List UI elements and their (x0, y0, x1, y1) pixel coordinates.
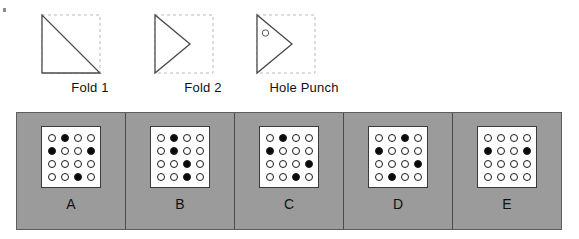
dot-cell (302, 170, 315, 183)
dot-empty-icon (375, 160, 383, 168)
fold-step-2-label: Fold 2 (148, 80, 258, 95)
fold-step-3: Hole Punch (244, 14, 354, 102)
dot-cell (289, 144, 302, 157)
dot-cell (494, 131, 507, 144)
dot-filled-icon (292, 173, 300, 181)
dot-cell (302, 157, 315, 170)
dot-cell (520, 131, 533, 144)
dot-cell (302, 144, 315, 157)
dot-cell (58, 144, 71, 157)
dot-empty-icon (157, 134, 165, 142)
dot-cell (520, 170, 533, 183)
fold-1-figure (41, 14, 119, 74)
dot-empty-icon (497, 160, 505, 168)
dot-empty-icon (401, 147, 409, 155)
dot-cell (398, 131, 411, 144)
dot-cell (180, 157, 193, 170)
dot-empty-icon (305, 147, 313, 155)
dot-cell (276, 170, 289, 183)
dot-filled-icon (523, 147, 531, 155)
dot-empty-icon (401, 160, 409, 168)
dot-filled-icon (375, 147, 383, 155)
dot-cell (154, 131, 167, 144)
dot-empty-icon (305, 134, 313, 142)
dot-cell (507, 157, 520, 170)
answer-option-a[interactable]: A (17, 113, 126, 229)
dot-cell (154, 157, 167, 170)
dot-cell (289, 170, 302, 183)
dot-empty-icon (292, 134, 300, 142)
dot-empty-icon (157, 173, 165, 181)
dot-cell (180, 170, 193, 183)
answer-option-d[interactable]: D (344, 113, 453, 229)
dot-empty-icon (279, 160, 287, 168)
dot-cell (494, 144, 507, 157)
dot-filled-icon (170, 147, 178, 155)
dot-cell (180, 144, 193, 157)
dot-grid (259, 126, 319, 188)
dot-cell (398, 157, 411, 170)
dot-cell (398, 144, 411, 157)
dot-empty-icon (305, 173, 313, 181)
dot-cell (71, 144, 84, 157)
dot-cell (263, 170, 276, 183)
dot-filled-icon (87, 147, 95, 155)
dot-empty-icon (61, 147, 69, 155)
hole-punch-figure (256, 14, 338, 74)
dot-empty-icon (375, 134, 383, 142)
dot-empty-icon (414, 134, 422, 142)
dot-grid (41, 126, 101, 188)
dot-cell (372, 144, 385, 157)
dot-empty-icon (74, 147, 82, 155)
fold-step-1: Fold 1 (36, 14, 146, 102)
dot-empty-icon (61, 173, 69, 181)
dot-empty-icon (74, 134, 82, 142)
dot-cell (372, 157, 385, 170)
dot-cell (507, 144, 520, 157)
fold-step-2: Fold 2 (148, 14, 258, 102)
dot-empty-icon (523, 173, 531, 181)
dot-cell (520, 157, 533, 170)
dot-filled-icon (61, 134, 69, 142)
dot-cell (167, 157, 180, 170)
dot-empty-icon (170, 173, 178, 181)
dot-cell (84, 144, 97, 157)
dot-empty-icon (279, 173, 287, 181)
dot-cell (507, 170, 520, 183)
dot-cell (411, 170, 424, 183)
dot-empty-icon (292, 160, 300, 168)
dot-cell (263, 157, 276, 170)
dot-empty-icon (74, 160, 82, 168)
dot-empty-icon (388, 134, 396, 142)
dot-filled-icon (279, 134, 287, 142)
dot-empty-icon (48, 160, 56, 168)
dot-cell (411, 144, 424, 157)
answer-option-e[interactable]: E (453, 113, 561, 229)
dot-cell (263, 131, 276, 144)
dot-filled-icon (266, 147, 274, 155)
hole-punch-triangle-icon (257, 15, 292, 73)
dot-filled-icon (484, 147, 492, 155)
fold-step-1-label: Fold 1 (34, 80, 146, 95)
dot-empty-icon (510, 147, 518, 155)
dot-empty-icon (510, 134, 518, 142)
dot-filled-icon (48, 147, 56, 155)
dot-cell (481, 170, 494, 183)
dot-empty-icon (401, 173, 409, 181)
dot-cell (494, 157, 507, 170)
dot-cell (385, 157, 398, 170)
punched-hole-icon (262, 30, 268, 36)
dot-empty-icon (279, 147, 287, 155)
dot-filled-icon (388, 173, 396, 181)
dot-cell (263, 144, 276, 157)
answer-option-b[interactable]: B (126, 113, 235, 229)
answer-choices-strip: ABCDE (16, 112, 562, 230)
dot-filled-icon (305, 160, 313, 168)
dot-empty-icon (157, 160, 165, 168)
dot-empty-icon (388, 160, 396, 168)
answer-option-c[interactable]: C (235, 113, 344, 229)
dot-cell (385, 144, 398, 157)
dot-cell (372, 170, 385, 183)
dot-empty-icon (87, 173, 95, 181)
dot-empty-icon (497, 134, 505, 142)
